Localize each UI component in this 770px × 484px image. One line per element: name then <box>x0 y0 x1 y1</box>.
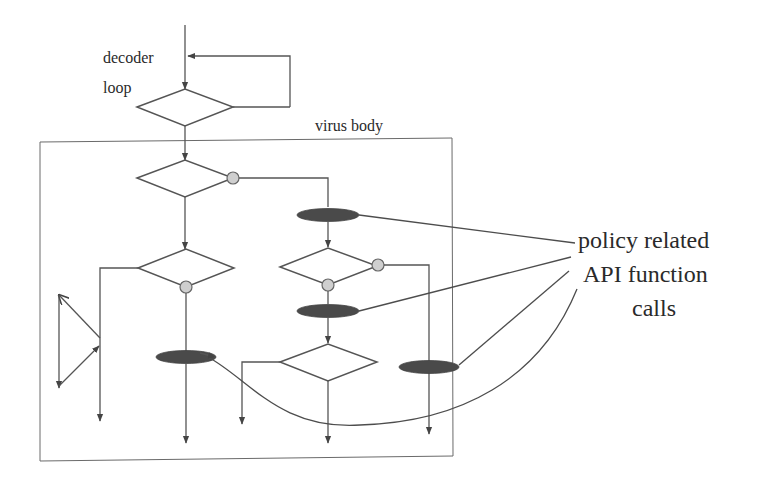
branch-dot-2 <box>180 281 192 293</box>
branch-dot-3 <box>372 259 384 271</box>
decoder-label: decoder <box>103 49 154 66</box>
annotation-line-2: API function <box>583 261 708 287</box>
annotation-line-3: calls <box>632 295 676 321</box>
branch-dot-4 <box>322 279 334 291</box>
pointer-to-api-2 <box>208 289 577 425</box>
triangle-edge-back <box>59 346 99 386</box>
loop-label: loop <box>103 79 131 97</box>
pointer-to-api-1 <box>359 215 575 243</box>
flowchart-diagram: decoder loop virus body policy related A… <box>0 0 770 484</box>
left-exit-arrow <box>100 268 138 421</box>
api-call-node-4 <box>399 361 459 374</box>
decoder-decision-node <box>137 89 233 126</box>
api-call-node-2 <box>156 351 216 364</box>
triangle-edge-up <box>59 295 100 338</box>
api-call-node-3 <box>297 305 359 318</box>
decision-node-4 <box>280 344 377 381</box>
api-call-node-1 <box>297 209 359 222</box>
branch-edge-1 <box>233 178 328 207</box>
virus-body-box <box>40 138 453 461</box>
decision-node-1 <box>137 160 233 197</box>
d4-left-exit-arrow <box>242 362 280 424</box>
pointer-to-api-4 <box>459 271 569 365</box>
virus-body-label: virus body <box>315 117 383 135</box>
annotation-line-1: policy related <box>578 227 709 253</box>
branch-dot-1 <box>227 172 239 184</box>
right-branch-arrow <box>384 265 429 434</box>
